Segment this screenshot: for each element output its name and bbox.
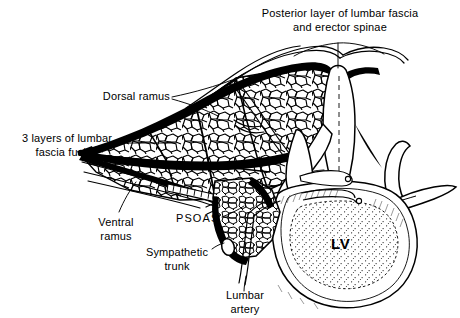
label-lumbar-artery-line2: artery bbox=[214, 302, 276, 316]
label-fascia-fusing-line2: fascia fusing bbox=[6, 145, 128, 159]
label-posterior-lumbar-fascia-line2: and erector spinae bbox=[250, 20, 430, 34]
label-sympathetic-trunk-line1: Sympathetic bbox=[141, 245, 213, 259]
label-fascia-fusing-line1: 3 layers of lumbar bbox=[6, 131, 128, 145]
label-ventral-ramus-line1: Ventral bbox=[76, 215, 156, 229]
label-vertebral-body: LV bbox=[331, 235, 350, 252]
label-sympathetic-trunk: Sympathetic trunk bbox=[141, 245, 213, 273]
leader-posterior-fascia-arc bbox=[294, 43, 384, 56]
anatomical-figure: Posterior layer of lumbar fascia and ere… bbox=[0, 0, 460, 318]
label-fascia-fusing: 3 layers of lumbar fascia fusing bbox=[6, 131, 128, 159]
label-sympathetic-trunk-line2: trunk bbox=[141, 259, 213, 273]
label-psoas: PSOAS bbox=[176, 212, 219, 226]
label-posterior-lumbar-fascia: Posterior layer of lumbar fascia and ere… bbox=[250, 6, 430, 34]
label-ventral-ramus-line2: ramus bbox=[76, 229, 156, 243]
label-lumbar-artery-line1: Lumbar bbox=[214, 288, 276, 302]
label-ventral-ramus: Ventral ramus bbox=[76, 215, 156, 243]
spinous-process bbox=[323, 66, 355, 189]
label-posterior-lumbar-fascia-line1: Posterior layer of lumbar fascia bbox=[250, 6, 430, 20]
label-lumbar-artery: Lumbar artery bbox=[214, 288, 276, 316]
label-dorsal-ramus: Dorsal ramus bbox=[60, 90, 170, 104]
lumbar-cross-section-drawing bbox=[0, 0, 460, 318]
